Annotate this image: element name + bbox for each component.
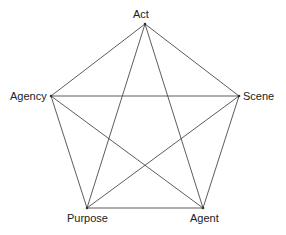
label-agency: Agency — [10, 91, 47, 102]
vertex-agent — [202, 207, 205, 210]
edge-scene-agent — [203, 96, 239, 208]
edge-purpose-agency — [51, 96, 87, 208]
edge-act-purpose — [87, 24, 145, 208]
vertex-purpose — [86, 207, 89, 210]
label-scene: Scene — [243, 91, 274, 102]
vertex-act — [144, 23, 147, 26]
edge-act-agent — [145, 24, 203, 208]
vertex-scene — [238, 95, 241, 98]
vertex-agency — [50, 95, 53, 98]
label-purpose: Purpose — [67, 213, 108, 224]
edge-scene-purpose — [87, 96, 239, 208]
edge-agency-act — [51, 24, 145, 96]
label-agent: Agent — [190, 213, 219, 224]
label-act: Act — [133, 9, 149, 20]
edges-group — [51, 24, 239, 208]
edge-agency-agent — [51, 96, 203, 208]
pentad-diagram — [0, 0, 286, 235]
edge-act-scene — [145, 24, 239, 96]
